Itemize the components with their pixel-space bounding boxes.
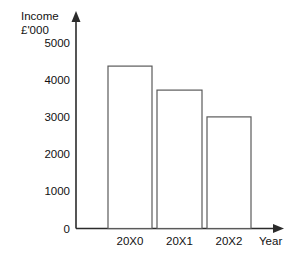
- y-axis-title-line1: Income: [21, 10, 59, 22]
- bar-20X1: [157, 90, 202, 228]
- bar-chart-figure: 5000 4000 3000 2000 1000 0 Income £'000 …: [0, 0, 304, 263]
- y-tick-label-4000: 4000: [44, 74, 70, 86]
- bar-20X2: [207, 117, 251, 229]
- x-axis-title: Year: [259, 235, 282, 247]
- x-tick-label-20X2: 20X2: [216, 235, 243, 247]
- y-tick-label-3000: 3000: [44, 111, 70, 123]
- x-tick-label-20X0: 20X0: [117, 235, 144, 247]
- chart-canvas: 5000 4000 3000 2000 1000 0 Income £'000 …: [0, 0, 304, 263]
- x-axis-arrow-icon: [273, 224, 284, 233]
- y-tick-label-5000: 5000: [44, 37, 70, 49]
- bar-20X0: [108, 66, 152, 228]
- y-tick-label-0: 0: [64, 223, 70, 235]
- y-axis-arrow-icon: [72, 11, 81, 22]
- y-tick-label-1000: 1000: [44, 185, 70, 197]
- y-axis-title-line2: £'000: [21, 24, 49, 36]
- x-tick-label-20X1: 20X1: [166, 235, 193, 247]
- y-tick-label-2000: 2000: [44, 148, 70, 160]
